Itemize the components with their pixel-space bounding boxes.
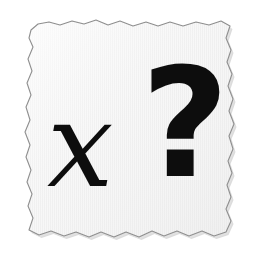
paper-sheet (20, 15, 240, 247)
image-canvas: x ? (0, 0, 254, 255)
torn-paper-graphic (0, 0, 254, 255)
